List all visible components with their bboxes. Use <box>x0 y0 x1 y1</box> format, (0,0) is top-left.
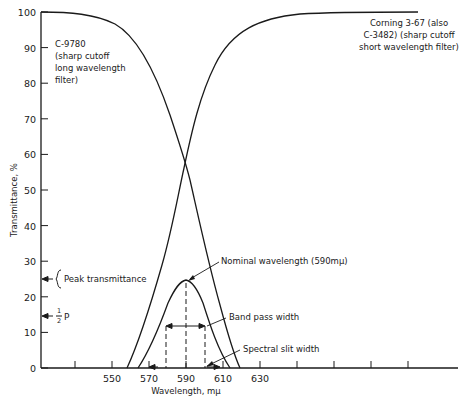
y-tick-label: 30 <box>24 256 36 267</box>
y-tick-label: 90 <box>24 43 36 54</box>
y-tick-label: 0 <box>30 363 36 374</box>
corning-label-line: C-3482) (sharp cutoff <box>363 30 455 40</box>
corning-label: Corning 3-67 (also C-3482) (sharp cutoff… <box>359 18 459 52</box>
c9780-label-line: C-9780 <box>55 39 86 49</box>
slit-width-label: Spectral slit width <box>243 344 319 354</box>
x-tick-label: 590 <box>177 373 195 384</box>
corning-label-line: Corning 3-67 (also <box>370 18 448 28</box>
slit-leader-arrowhead <box>206 361 214 367</box>
peak-transmittance-marker <box>42 277 53 282</box>
y-axis-title: Transmittance, % <box>9 163 19 238</box>
y-tick-label: 40 <box>24 221 36 232</box>
peak-transmittance-label: Peak transmittance <box>64 274 147 284</box>
band-pass-label: Band pass width <box>229 312 299 322</box>
x-tick-label: 550 <box>103 373 121 384</box>
x-tick-label: 570 <box>140 373 158 384</box>
y-tick-label: 60 <box>24 149 36 160</box>
half-p-numerator: 1 <box>57 307 61 315</box>
transmittance-chart: 0 10 20 30 40 50 60 70 80 90 100 Transmi… <box>0 0 472 401</box>
y-tick-label: 80 <box>24 78 36 89</box>
y-tick-label: 20 <box>24 292 36 303</box>
c9780-label-line: long wavelength <box>55 63 126 73</box>
y-tick-label: 10 <box>24 327 36 338</box>
brace-icon <box>56 270 61 288</box>
x-tick-labels: 550 570 590 610 630 <box>103 373 269 384</box>
y-tick-label: 50 <box>24 185 36 196</box>
x-axis-title: Wavelength, mμ <box>151 386 221 396</box>
c9780-label-line: filter) <box>55 75 78 85</box>
y-tick-labels: 0 10 20 30 40 50 60 70 80 90 100 <box>18 7 36 374</box>
nominal-wavelength-label: Nominal wavelength (590mμ) <box>221 256 348 266</box>
nominal-leader <box>190 262 219 279</box>
c9780-label: C-9780 (sharp cutoff long wavelength fil… <box>55 39 126 85</box>
c9780-label-line: (sharp cutoff <box>55 51 111 61</box>
half-p-denominator: 2 <box>57 317 61 325</box>
half-p-label: P <box>64 312 70 322</box>
y-tick-label: 100 <box>18 7 36 18</box>
x-tick-label: 610 <box>214 373 232 384</box>
nominal-leader-arrowhead <box>188 275 195 281</box>
x-tick-label: 630 <box>251 373 269 384</box>
corning-label-line: short wavelength filter) <box>359 42 459 52</box>
y-tick-label: 70 <box>24 114 36 125</box>
x-ticks <box>75 361 408 368</box>
